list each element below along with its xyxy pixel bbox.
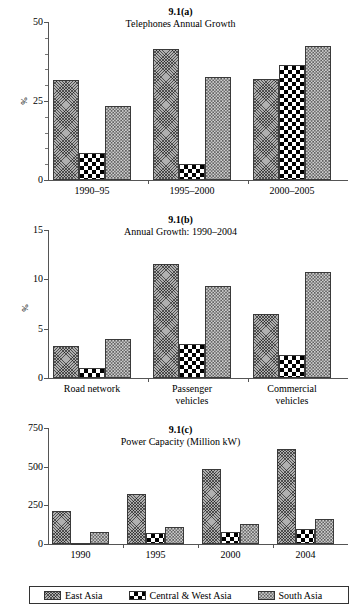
plot-a-y-major-tick [44,180,49,181]
bar-east-asia-2 [253,314,279,378]
plot-c-y-tick-label: 0 [38,539,43,549]
plot-c-category-label: 2004 [268,549,343,561]
plot-b-y-major-tick [44,279,49,280]
bar-central-west-asia-0 [79,368,105,378]
plot-b-x-axis [48,378,348,379]
plot-a-y-minor-tick [45,54,48,55]
plot-a-y-tick-label: 0 [38,175,43,185]
bar-central-west-asia-2 [279,355,305,378]
bar-east-asia-0 [52,511,71,544]
bar-south-asia-0 [105,106,131,180]
plot-c-y-major-tick [44,544,49,545]
bar-south-asia-1 [165,527,184,544]
figure-legend: East Asia Central & West Asia South Asia [29,586,349,604]
plot-a-x-separator-tick [148,180,149,184]
bar-east-asia-1 [153,49,179,180]
bar-south-asia-2 [240,524,259,544]
legend-swatch-east-asia-icon [44,591,61,600]
plot-c-x-separator-tick [273,544,274,548]
plot-a-y-minor-tick [45,85,48,86]
chart-b-number: 9.1(b) [0,214,361,226]
chart-b-y-axis-label: % [20,304,30,312]
bar-south-asia-0 [90,532,109,544]
plot-c-y-tick-label: 250 [28,500,43,510]
chart-a-plot-area: 025501990–951995–20002000–2005 [48,22,348,180]
legend-item-east-asia: East Asia [44,590,103,601]
plot-b-y-tick-label: 5 [38,324,43,334]
plot-c-y-axis [48,428,49,544]
plot-a-y-minor-tick [45,164,48,165]
bar-central-west-asia-1 [179,344,205,378]
bar-south-asia-1 [205,77,231,180]
bar-south-asia-0 [105,339,131,378]
plot-b-y-tick-label: 10 [33,274,43,284]
plot-b-y-major-tick [44,230,49,231]
chart-telephones-annual-growth: 9.1(a) Telephones Annual Growth 02550199… [0,0,361,195]
plot-c-y-major-tick [44,467,49,468]
chart-b-plot-area: 051015Road networkPassenger vehiclesComm… [48,230,348,378]
plot-a-y-minor-tick [45,133,48,134]
bar-central-west-asia-2 [221,532,240,544]
legend-swatch-central-west-asia-icon [129,591,146,600]
bar-east-asia-2 [253,79,279,180]
plot-a-y-major-tick [44,22,49,23]
plot-c-y-major-tick [44,428,49,429]
plot-c-x-separator-tick [198,544,199,548]
chart-annual-growth-1990-2004: 9.1(b) Annual Growth: 1990–2004 051015Ro… [0,195,361,390]
plot-a-x-separator-tick [248,180,249,184]
plot-b-y-tick-label: 15 [33,225,43,235]
plot-c-y-tick-label: 750 [28,423,43,433]
plot-c-category-label: 2000 [193,549,268,561]
bar-south-asia-2 [305,272,331,378]
bar-east-asia-2 [202,469,221,544]
plot-c-y-major-tick [44,505,49,506]
plot-b-y-major-tick [44,378,49,379]
bar-east-asia-3 [277,449,296,544]
chart-a-number: 9.1(a) [0,6,361,18]
bar-central-west-asia-1 [146,533,165,544]
plot-c-category-label: 1990 [43,549,118,561]
plot-a-x-axis [48,180,348,181]
bar-south-asia-2 [305,46,331,180]
plot-b-x-separator-tick [148,378,149,382]
legend-swatch-south-asia-icon [258,591,275,600]
bar-central-west-asia-0 [79,153,105,180]
legend-label-central-west-asia: Central & West Asia [150,590,232,601]
chart-power-capacity: 9.1(c) Power Capacity (Million kW) 02505… [0,390,361,586]
legend-item-south-asia: South Asia [258,590,323,601]
plot-a-y-major-tick [44,101,49,102]
plot-c-y-tick-label: 500 [28,462,43,472]
bar-south-asia-3 [315,519,334,544]
plot-a-y-minor-tick [45,117,48,118]
plot-c-x-separator-tick [123,544,124,548]
bar-east-asia-1 [127,494,146,544]
bar-central-west-asia-3 [296,529,315,544]
chart-a-y-axis-label: % [19,97,29,105]
plot-b-y-axis [48,230,49,378]
bar-east-asia-0 [53,346,79,378]
plot-b-y-tick-label: 0 [38,373,43,383]
legend-item-central-west-asia: Central & West Asia [129,590,232,601]
plot-a-y-tick-label: 50 [33,17,43,27]
plot-a-y-tick-label: 25 [33,96,43,106]
bar-central-west-asia-0 [71,543,90,545]
plot-b-y-major-tick [44,329,49,330]
chart-c-plot-area: 02505007501990199520002004 [48,428,348,544]
bar-central-west-asia-2 [279,65,305,180]
legend-label-east-asia: East Asia [65,590,103,601]
plot-b-x-separator-tick [248,378,249,382]
bar-east-asia-1 [153,264,179,378]
bar-south-asia-1 [205,286,231,378]
plot-a-y-minor-tick [45,38,48,39]
plot-a-y-minor-tick [45,69,48,70]
plot-c-category-label: 1995 [118,549,193,561]
plot-a-y-minor-tick [45,148,48,149]
bar-east-asia-0 [53,80,79,180]
bar-central-west-asia-1 [179,164,205,180]
legend-label-south-asia: South Asia [279,590,323,601]
